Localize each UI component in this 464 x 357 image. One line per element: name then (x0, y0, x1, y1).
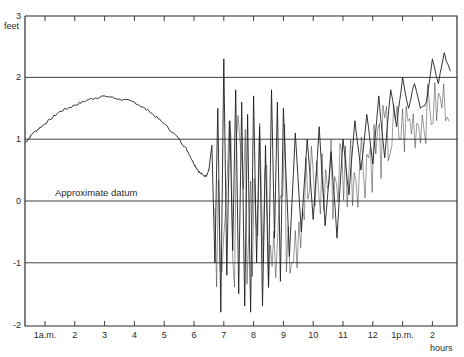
x-tick-label: 5 (162, 330, 167, 340)
water-level-trace (26, 53, 451, 313)
x-tick-label: 12 (368, 330, 378, 340)
x-tick-label: 9 (281, 330, 286, 340)
tide-record-chart: 3210-1-2 1a.m.234567891011121p.m.2 feet … (0, 0, 464, 357)
x-tick-label: 2 (430, 330, 435, 340)
y-tick-label: 2 (16, 72, 21, 82)
y-tick-label: -2 (13, 320, 21, 330)
x-tick-label: 1p.m. (391, 330, 414, 340)
x-tick-label: 2 (72, 330, 77, 340)
x-tick-label: 10 (308, 330, 318, 340)
x-tick-label: 1a.m. (34, 330, 57, 340)
x-tick-label: 6 (191, 330, 196, 340)
x-tick-label: 3 (102, 330, 107, 340)
x-tick-label: 11 (338, 330, 347, 340)
y-tick-label: 1 (16, 134, 21, 144)
y-tick-label: 3 (16, 11, 21, 21)
datum-annotation: Approximate datum (55, 187, 137, 198)
x-axis-label: hours (430, 343, 453, 353)
y-axis-label: feet (4, 21, 20, 31)
y-tick-label: -1 (13, 258, 21, 268)
y-axis: 3210-1-2 (13, 11, 21, 330)
x-tick-label: 8 (251, 330, 256, 340)
x-tick-label: 7 (221, 330, 226, 340)
y-tick-label: 0 (16, 196, 21, 206)
x-tick-label: 4 (132, 330, 137, 340)
